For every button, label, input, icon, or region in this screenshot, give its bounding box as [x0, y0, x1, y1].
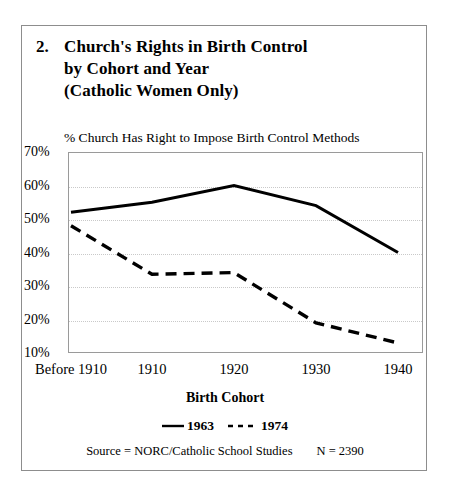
y-tick-20: 20%: [24, 313, 66, 327]
y-tick-50: 50%: [24, 212, 66, 226]
legend-label-1963: 1963: [187, 418, 214, 434]
y-tick-10: 10%: [24, 346, 66, 360]
chart-subtitle: % Church Has Right to Impose Birth Contr…: [64, 130, 359, 146]
solid-line-swatch: [162, 422, 184, 430]
y-tick-70: 70%: [24, 145, 66, 159]
y-tick-40: 40%: [24, 246, 66, 260]
chart-source-row: Source = NORC/Catholic School Studies N …: [22, 444, 428, 459]
series-line-1974: [71, 226, 398, 343]
y-tick-30: 30%: [24, 279, 66, 293]
x-axis-title: Birth Cohort: [22, 390, 428, 406]
source-text: Source = NORC/Catholic School Studies: [86, 444, 292, 459]
legend-item-1974: 1974: [228, 418, 288, 434]
dashed-line-swatch: [228, 422, 258, 430]
x-tick-1910: 1910: [138, 360, 167, 378]
x-tick-before-1910: Before 1910: [35, 360, 107, 378]
legend-item-1963: 1963: [162, 418, 214, 434]
series-plot: [68, 152, 423, 353]
x-axis-labels: Before 1910 1910 1920 1930 1940: [22, 360, 428, 382]
legend-label-1974: 1974: [261, 418, 288, 434]
figure-panel: 2. Church's Rights in Birth Control by C…: [21, 25, 427, 471]
x-tick-1940: 1940: [384, 360, 413, 378]
series-line-1963: [71, 186, 398, 253]
sample-size: N = 2390: [317, 444, 364, 459]
chart-legend: 1963 1974: [22, 418, 428, 434]
y-axis-labels: 70% 60% 50% 40% 30% 20% 10%: [22, 152, 66, 353]
y-tick-60: 60%: [24, 179, 66, 193]
x-tick-1920: 1920: [220, 360, 249, 378]
x-tick-1930: 1930: [302, 360, 331, 378]
chart-area: % Church Has Right to Impose Birth Contr…: [22, 26, 428, 472]
